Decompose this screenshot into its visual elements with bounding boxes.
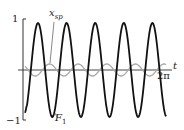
x-sp-pointer <box>50 22 54 63</box>
plot-area <box>0 0 184 130</box>
F1-label: F1 <box>55 113 66 126</box>
x-axis-label: t <box>173 61 177 71</box>
x-end-label: 2π <box>157 71 170 81</box>
figure: 1 −1 t 2π xsp F1 <box>0 0 184 130</box>
y-top-label: 1 <box>12 14 18 24</box>
y-axis <box>23 19 26 120</box>
x-sp-label: xsp <box>49 8 63 21</box>
y-bottom-label: −1 <box>6 116 21 126</box>
